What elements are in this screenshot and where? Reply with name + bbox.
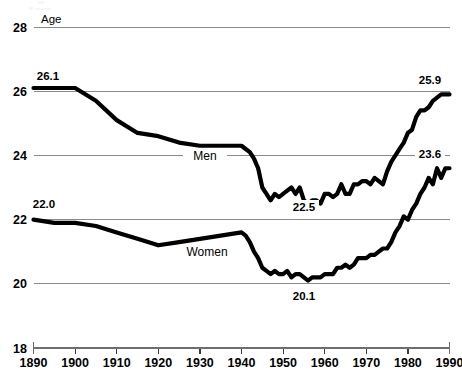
x-tick-label-1940: 1940	[228, 356, 256, 370]
series-line-men	[34, 88, 450, 204]
annotation-women-23-6: 23.6	[419, 148, 441, 160]
annotation-women-22-0: 22.0	[33, 198, 55, 210]
y-tick-label-24: 24	[13, 149, 27, 163]
x-tick-label-1920: 1920	[144, 356, 172, 370]
data-series-lines	[34, 88, 450, 281]
chart-canvas: 282624222018 189019001910192019301940195…	[0, 0, 462, 383]
y-tick-label-18: 18	[13, 342, 27, 356]
x-tick-label-1890: 1890	[20, 356, 48, 370]
x-tick-label-1900: 1900	[61, 356, 89, 370]
annotation-men-22-5: 22.5	[293, 201, 316, 213]
annotation-men-25-9: 25.9	[419, 74, 441, 86]
series-label-women: Women	[186, 245, 227, 259]
y-tick-label-22: 22	[13, 213, 27, 227]
series-inline-labels: MenWomen	[183, 149, 229, 260]
x-tick-label-1980: 1980	[394, 356, 422, 370]
series-label-men: Men	[193, 149, 216, 163]
age-at-first-marriage-chart: 282624222018 189019001910192019301940195…	[0, 0, 462, 383]
x-tick-label-1990: 1990	[436, 356, 462, 370]
x-tick-label-1930: 1930	[186, 356, 214, 370]
x-axis-tickmarks	[34, 348, 450, 354]
y-axis-tick-labels: 282624222018	[13, 21, 27, 356]
x-tick-label-1960: 1960	[311, 356, 339, 370]
series-line-women	[34, 168, 450, 280]
x-tick-label-1970: 1970	[352, 356, 380, 370]
x-tick-label-1910: 1910	[103, 356, 131, 370]
x-tick-label-1950: 1950	[269, 356, 297, 370]
annotation-men-26-1: 26.1	[37, 70, 60, 82]
y-axis-title: Age	[41, 13, 61, 25]
y-tick-label-26: 26	[13, 85, 27, 99]
annotation-women-20-1: 20.1	[293, 290, 316, 302]
x-axis-tick-labels: 1890190019101920193019401950196019701980…	[20, 356, 462, 370]
top-crop-artifact	[29, 1, 51, 10]
y-tick-label-20: 20	[13, 277, 27, 291]
y-tick-label-28: 28	[13, 21, 27, 35]
